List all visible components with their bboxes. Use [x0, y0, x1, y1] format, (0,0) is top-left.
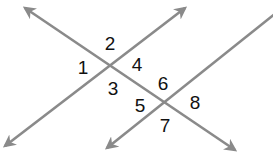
angle-label-2: 2 [105, 34, 116, 53]
diagram-canvas: 1 2 3 4 5 6 7 8 [0, 0, 273, 159]
angle-label-8: 8 [190, 93, 201, 112]
angle-label-3: 3 [108, 79, 119, 98]
angle-label-5: 5 [135, 96, 146, 115]
angle-label-4: 4 [132, 55, 143, 74]
angle-label-6: 6 [158, 74, 169, 93]
angle-label-7: 7 [160, 116, 171, 135]
lines-layer [0, 0, 273, 159]
angle-label-1: 1 [78, 58, 89, 77]
